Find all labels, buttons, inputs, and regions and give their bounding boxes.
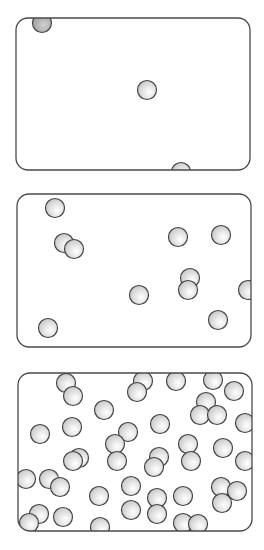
particle bbox=[130, 286, 149, 305]
container-low-density bbox=[16, 14, 250, 182]
particle bbox=[214, 439, 233, 458]
particle bbox=[122, 477, 141, 496]
particle bbox=[17, 470, 36, 489]
particle bbox=[51, 478, 70, 497]
particle bbox=[54, 508, 73, 527]
particle bbox=[213, 494, 232, 513]
particle bbox=[63, 418, 82, 437]
particle bbox=[167, 372, 186, 391]
particle bbox=[174, 487, 193, 506]
particle bbox=[209, 311, 228, 330]
particle bbox=[33, 14, 52, 33]
container-high-density bbox=[17, 371, 255, 537]
particle bbox=[128, 383, 147, 402]
gas-density-diagram bbox=[0, 0, 264, 550]
particle bbox=[95, 401, 114, 420]
particle bbox=[172, 163, 191, 182]
particle bbox=[64, 387, 83, 406]
particle bbox=[239, 281, 258, 300]
particle bbox=[179, 281, 198, 300]
particle bbox=[65, 240, 84, 259]
particles bbox=[33, 14, 191, 182]
particle bbox=[108, 452, 127, 471]
particle bbox=[90, 487, 109, 506]
particle bbox=[39, 319, 58, 338]
particle bbox=[106, 435, 125, 454]
particle bbox=[31, 425, 50, 444]
particle bbox=[145, 458, 164, 477]
particle bbox=[20, 514, 39, 533]
particle bbox=[46, 199, 65, 218]
particle bbox=[169, 228, 188, 247]
particle bbox=[138, 81, 157, 100]
particle bbox=[191, 406, 210, 425]
particle bbox=[225, 382, 244, 401]
particles bbox=[39, 199, 258, 338]
particle bbox=[212, 226, 231, 245]
particle bbox=[91, 518, 110, 537]
particle bbox=[179, 435, 198, 454]
container-border bbox=[16, 18, 250, 170]
particle bbox=[122, 501, 141, 520]
particles bbox=[17, 371, 255, 537]
particle bbox=[151, 415, 170, 434]
particle bbox=[208, 406, 227, 425]
container-medium-density bbox=[17, 194, 258, 347]
particle bbox=[64, 452, 83, 471]
particle bbox=[182, 452, 201, 471]
particle bbox=[148, 505, 167, 524]
